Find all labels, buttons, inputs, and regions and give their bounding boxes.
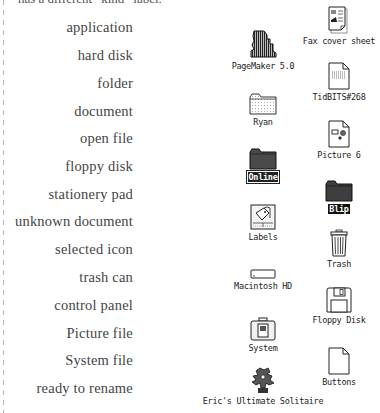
unknown-document-icon <box>328 347 350 375</box>
legend-label-open-file: open file <box>80 130 133 147</box>
floppy-disk-icon <box>326 287 352 313</box>
application-icon <box>248 366 278 394</box>
icon-label: Ryan <box>252 117 273 127</box>
desktop-icon-floppy-disk[interactable]: Floppy Disk <box>294 287 380 325</box>
folder-icon <box>325 180 353 202</box>
hard-disk-icon <box>250 269 276 279</box>
desktop-icon-buttons[interactable]: Buttons <box>294 347 380 387</box>
icon-label: Labels <box>248 232 279 242</box>
desktop-icon-trash[interactable]: Trash <box>294 229 380 269</box>
icon-label-selected: Blip <box>328 204 349 214</box>
icon-label: Trash <box>326 259 352 269</box>
icon-label: Eric's Ultimate Solitaire <box>202 396 324 406</box>
caption-fragment: has a different “kind” label. <box>18 0 162 7</box>
legend-label-trash-can: trash can <box>79 269 133 286</box>
margin-dotted-line <box>3 0 4 413</box>
desktop-icon-picture-6[interactable]: Picture 6 <box>294 120 380 160</box>
legend-label-folder: folder <box>97 75 133 92</box>
legend-label-application: application <box>66 19 133 36</box>
folder-icon <box>249 148 277 170</box>
legend-label-stationery-pad: stationery pad <box>48 186 133 203</box>
legend-label-control-panel: control panel <box>54 297 133 314</box>
legend-label-unknown-document: unknown document <box>15 213 133 230</box>
stationery-pad-icon <box>328 6 350 34</box>
desktop-icon-blip[interactable]: Blip <box>294 180 380 214</box>
picture-file-icon <box>328 120 350 148</box>
legend-label-document: document <box>74 103 133 120</box>
icon-label: Buttons <box>321 377 357 387</box>
application-icon <box>248 29 278 59</box>
legend-label-hard-disk: hard disk <box>78 47 133 64</box>
icon-label: Picture 6 <box>316 150 361 160</box>
control-panel-icon <box>250 204 276 230</box>
icon-label: Macintosh HD <box>233 281 293 291</box>
icon-label: TidBITS#268 <box>312 92 367 102</box>
system-file-icon <box>250 317 276 341</box>
icon-label: System <box>248 343 279 353</box>
legend-label-system-file: System file <box>65 352 133 369</box>
legend-label-selected-icon: selected icon <box>55 241 133 258</box>
legend-label-picture-file: Picture file <box>67 325 133 342</box>
icon-label: Floppy Disk <box>312 315 367 325</box>
legend-label-floppy-disk: floppy disk <box>65 158 133 175</box>
desktop-icon-fax-cover-sheet[interactable]: Fax cover sheet <box>294 6 380 46</box>
desktop-icon-tidbits[interactable]: TidBITS#268 <box>294 62 380 102</box>
legend-label-ready-to-rename: ready to rename <box>37 380 133 397</box>
open-folder-icon <box>249 93 277 115</box>
icon-label: PageMaker 5.0 <box>231 61 296 71</box>
trash-can-icon <box>330 229 348 257</box>
rename-field[interactable]: Online <box>248 172 279 182</box>
icon-label: Fax cover sheet <box>302 36 376 46</box>
document-icon <box>328 62 350 90</box>
